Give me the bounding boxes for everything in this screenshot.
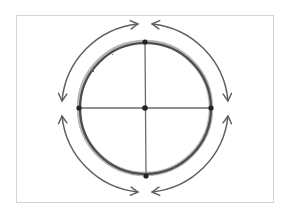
point-left bbox=[76, 105, 81, 110]
point-center bbox=[142, 105, 148, 111]
circle-diagram bbox=[0, 0, 291, 216]
point-top bbox=[142, 39, 147, 44]
point-right bbox=[208, 105, 213, 110]
point-bottom bbox=[143, 173, 148, 178]
